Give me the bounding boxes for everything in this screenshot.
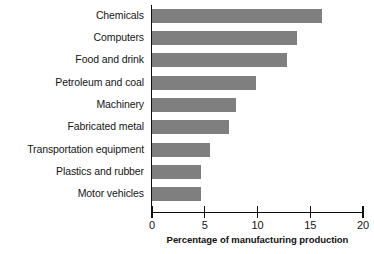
bar — [152, 120, 229, 134]
category-label: Transportation equipment — [0, 144, 144, 155]
x-axis-tick — [310, 206, 311, 218]
plot-area — [152, 0, 369, 212]
bar — [152, 98, 236, 112]
category-label: Machinery — [0, 99, 144, 110]
x-axis-tick-label: 20 — [348, 219, 374, 231]
x-axis-tick — [362, 206, 363, 218]
x-axis-tick-label: 0 — [137, 219, 167, 231]
x-axis-tick-label: 15 — [295, 219, 325, 231]
x-axis-tick — [151, 206, 152, 218]
bar — [152, 9, 322, 23]
bar — [152, 187, 201, 201]
y-axis-line — [151, 5, 152, 213]
category-label: Motor vehicles — [0, 188, 144, 199]
category-label: Chemicals — [0, 10, 144, 21]
bar — [152, 53, 287, 67]
category-label: Fabricated metal — [0, 121, 144, 132]
bar — [152, 165, 201, 179]
x-axis-tick-label: 5 — [190, 219, 220, 231]
category-axis-labels: ChemicalsComputersFood and drinkPetroleu… — [0, 0, 148, 212]
category-label: Food and drink — [0, 54, 144, 65]
bar — [152, 76, 256, 90]
bar — [152, 143, 210, 157]
x-axis-title: Percentage of manufacturing production — [152, 234, 363, 245]
bar — [152, 31, 297, 45]
category-label: Computers — [0, 32, 144, 43]
category-label: Petroleum and coal — [0, 77, 144, 88]
x-axis-tick-label: 10 — [243, 219, 273, 231]
category-label: Plastics and rubber — [0, 166, 144, 177]
x-axis-tick — [257, 206, 258, 218]
x-axis-tick — [204, 206, 205, 218]
